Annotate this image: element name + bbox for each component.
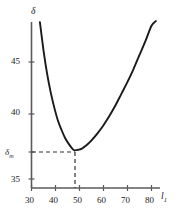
- x-tick-label-50: 50: [73, 196, 82, 205]
- y-tick-label-45: 45: [11, 57, 20, 66]
- x-tick-label-60: 60: [97, 196, 106, 205]
- x-axis-title: l1: [161, 192, 167, 203]
- y-tick-label-40: 40: [11, 108, 20, 117]
- delta-m-sub: m: [9, 153, 13, 159]
- x-axis-title-sub: 1: [164, 196, 167, 203]
- x-tick-label-40: 40: [49, 196, 58, 205]
- y-axis-title: δ: [31, 7, 35, 17]
- y-tick-label-delta-m: δm: [5, 148, 14, 159]
- x-tick-label-80: 80: [145, 196, 154, 205]
- y-tick-label-35: 35: [11, 175, 20, 184]
- plot-area: [0, 0, 178, 214]
- chart-figure: δ l1 45 40 35 δm 30 40 50 60 70 80: [0, 0, 178, 214]
- x-tick-label-70: 70: [121, 196, 130, 205]
- data-curve: [40, 21, 156, 150]
- x-tick-label-30: 30: [25, 196, 34, 205]
